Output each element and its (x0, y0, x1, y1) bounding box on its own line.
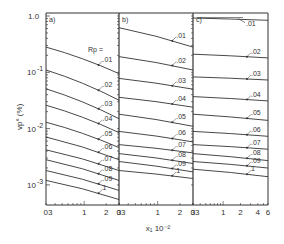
legend-title: Rp = (88, 46, 103, 54)
series-label: 1 (103, 184, 107, 191)
x-tick-label: 1 (82, 208, 87, 217)
y-tick-label-exponent: -1 (37, 65, 43, 72)
x-tick-label: 03 (117, 208, 126, 217)
series-label: 1 (176, 167, 180, 174)
series-label: .06 (251, 126, 261, 133)
x-tick-label: 2 (178, 208, 183, 217)
curve-rp01 (193, 18, 268, 20)
x-tick-label: 6 (266, 208, 271, 217)
series-label: .07 (176, 141, 186, 148)
y-tick-label-exponent: -3 (37, 178, 43, 185)
y-tick-label: 1.0 (28, 12, 40, 21)
series-label: .02 (103, 81, 113, 88)
series-label: .08 (103, 165, 113, 172)
series-label: .03 (176, 77, 186, 84)
x-tick-label: 1 (221, 208, 226, 217)
curve-rp03 (193, 77, 268, 80)
x-tick-label: 03 (44, 208, 53, 217)
series-label: .09 (251, 157, 261, 164)
series-label: .05 (103, 130, 113, 137)
x-tick-label: 4 (256, 208, 261, 217)
y-tick-label: 10 (27, 125, 36, 134)
x-tick-label: 2 (238, 208, 243, 217)
series-label: .05 (251, 109, 261, 116)
axis-ticks (46, 16, 268, 205)
curves (46, 18, 268, 200)
y-tick-label: 10 (27, 68, 36, 77)
chart-labels: 1.010-110-210-3vp° (%)a).01.02.03.04.05.… (15, 12, 271, 233)
series-label: .01 (103, 56, 113, 63)
series-label: .07 (251, 139, 261, 146)
series-label: .08 (251, 149, 261, 156)
series-label: .09 (103, 175, 113, 182)
chart: 1.010-110-210-3vp° (%)a).01.02.03.04.05.… (0, 0, 284, 244)
x-tick-label: 2 (104, 208, 109, 217)
series-label: .01 (246, 20, 256, 27)
series-label: 1 (251, 165, 255, 172)
series-label: .04 (103, 115, 113, 122)
curve-1 (46, 180, 119, 199)
x-tick-label: 03 (191, 208, 200, 217)
series-label: .08 (176, 151, 186, 158)
panel-label: b) (122, 16, 128, 24)
series-label: .03 (251, 70, 261, 77)
series-label: .04 (251, 91, 261, 98)
series-label: .09 (176, 160, 186, 167)
x-tick-label: 1 (155, 208, 160, 217)
curve-rp02 (193, 54, 268, 58)
panel-label: c) (196, 16, 202, 24)
series-label: .03 (103, 100, 113, 107)
x-axis-label: x₁ 10⁻² (146, 224, 171, 233)
series-label: .02 (176, 57, 186, 64)
curve-1 (193, 169, 268, 177)
panel-frames (46, 13, 268, 205)
series-label: .06 (103, 143, 113, 150)
series-label: .07 (103, 155, 113, 162)
series-label: .01 (176, 32, 186, 39)
y-tick-label-exponent: -2 (37, 122, 43, 129)
y-axis-label: vp° (%) (15, 103, 24, 130)
series-label: .02 (251, 48, 261, 55)
series-label: .04 (176, 95, 186, 102)
y-tick-label: 10 (27, 181, 36, 190)
series-label: .06 (176, 129, 186, 136)
curve-1 (119, 171, 193, 179)
panel-label: a) (49, 16, 55, 24)
series-label: .05 (176, 113, 186, 120)
